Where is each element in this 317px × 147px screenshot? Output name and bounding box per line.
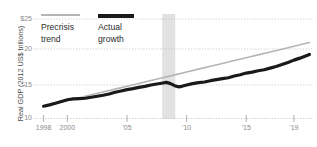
legend-label-line2: growth — [98, 34, 138, 46]
series-line-actual-growth — [44, 54, 310, 106]
legend-label-line1: Actual — [98, 22, 138, 34]
line-swatch-black-icon — [98, 14, 134, 18]
gdp-trend-chart: Real GDP (2012 US$ trillions) $25 20 15 … — [0, 0, 317, 147]
legend-label-line1: Precrisis — [41, 22, 81, 34]
chart-legend: Precrisis trend Actual growth — [41, 14, 138, 45]
x-tick-label-2010: '10 — [172, 124, 202, 132]
x-tick-label-2000: 2000 — [52, 124, 82, 132]
series-line-precrisis-trend — [44, 43, 310, 107]
legend-item-precrisis-trend: Precrisis trend — [41, 14, 81, 45]
x-tick-label-2015: '15 — [231, 124, 261, 132]
recession-band — [162, 14, 175, 119]
legend-label-line2: trend — [41, 34, 81, 46]
line-swatch-gray-icon — [41, 14, 80, 16]
x-tick-label-2005: '05 — [112, 124, 142, 132]
legend-item-actual-growth: Actual growth — [98, 14, 138, 45]
x-tick-label-2019: '19 — [279, 124, 309, 132]
